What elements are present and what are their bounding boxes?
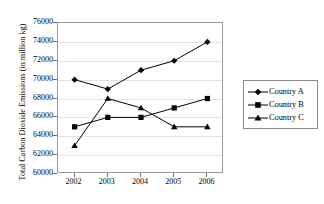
data-point	[71, 77, 77, 83]
data-point	[172, 105, 177, 110]
y-tick-mark	[53, 173, 57, 174]
y-tick-label: 70000	[11, 75, 53, 83]
y-tick-label: 68000	[11, 94, 53, 102]
plot-area	[57, 22, 223, 173]
y-tick-label: 72000	[11, 56, 53, 64]
y-tick-mark	[53, 98, 57, 99]
y-tick-label: 66000	[11, 112, 53, 120]
triangle-marker-icon	[247, 112, 269, 124]
y-tick-label: 76000	[11, 18, 53, 26]
series-line	[75, 99, 208, 127]
y-tick-mark	[53, 116, 57, 117]
y-tick-label: 60000	[11, 169, 53, 177]
legend-label: Country A	[269, 87, 304, 96]
diamond-marker-icon	[247, 86, 269, 98]
chart-legend: Country ACountry BCountry C	[243, 80, 318, 129]
data-point	[72, 124, 77, 129]
series-country-b	[72, 96, 210, 130]
data-point	[138, 115, 143, 120]
square-marker-icon	[247, 99, 269, 111]
y-tick-mark	[53, 41, 57, 42]
x-tick-mark	[107, 173, 108, 177]
legend-item-country-c[interactable]: Country C	[247, 111, 314, 124]
x-tick-mark	[140, 173, 141, 177]
x-tick-mark	[206, 173, 207, 177]
data-point	[105, 95, 112, 101]
data-point	[105, 86, 111, 92]
x-tick-mark	[173, 173, 174, 177]
y-tick-mark	[53, 135, 57, 136]
y-tick-mark	[53, 79, 57, 80]
chart-figure: Total Carbon Dioxide Emissions (in milli…	[0, 0, 324, 204]
legend-item-country-b[interactable]: Country B	[247, 98, 314, 111]
y-tick-label: 74000	[11, 37, 53, 45]
series-line	[75, 42, 208, 89]
y-tick-label: 62000	[11, 150, 53, 158]
y-tick-mark	[53, 60, 57, 61]
legend-item-country-a[interactable]: Country A	[247, 85, 314, 98]
series-layer	[58, 23, 224, 174]
data-point	[105, 115, 110, 120]
y-tick-mark	[53, 154, 57, 155]
legend-label: Country B	[269, 100, 304, 109]
series-country-a	[71, 39, 210, 92]
x-tick-mark	[74, 173, 75, 177]
data-point	[171, 58, 177, 64]
y-tick-mark	[53, 22, 57, 23]
data-point	[204, 39, 210, 45]
legend-label: Country C	[269, 113, 304, 122]
data-point	[138, 67, 144, 73]
data-point	[205, 96, 210, 101]
y-tick-label: 64000	[11, 131, 53, 139]
x-tick-label: 2006	[186, 178, 226, 186]
